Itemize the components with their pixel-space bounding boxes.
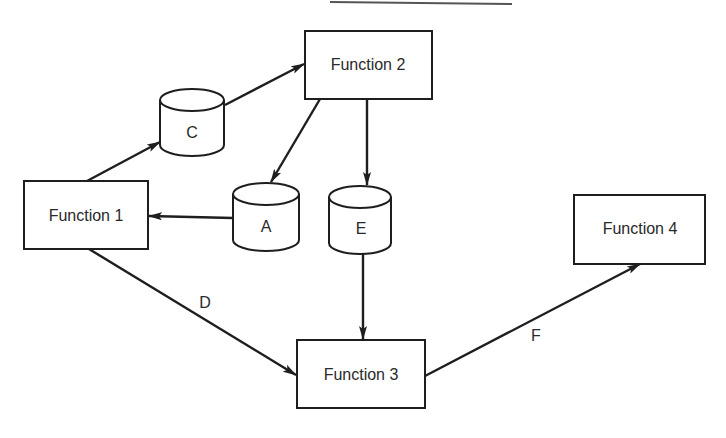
flow-c-to-f2[interactable] xyxy=(225,64,304,105)
flow-label-f: F xyxy=(531,327,541,344)
flow-label-d: D xyxy=(199,294,211,311)
flow-f1-to-f3-d[interactable] xyxy=(89,249,296,375)
process-function-2[interactable]: Function 2 xyxy=(305,31,432,99)
data-store-e[interactable]: E xyxy=(329,186,391,254)
flow-f3-to-f4-f[interactable] xyxy=(425,264,640,376)
process-function-3[interactable]: Function 3 xyxy=(297,340,425,408)
top-rule xyxy=(330,2,512,4)
process-function-4[interactable]: Function 4 xyxy=(574,195,705,264)
data-store-a[interactable]: A xyxy=(233,183,299,251)
process-label: Function 4 xyxy=(603,220,678,237)
data-store-c[interactable]: C xyxy=(160,89,224,156)
flow-a-to-f1[interactable] xyxy=(149,216,233,218)
process-label: Function 2 xyxy=(331,56,406,73)
process-label: Function 1 xyxy=(49,207,124,224)
process-function-1[interactable]: Function 1 xyxy=(24,181,148,249)
data-flow-diagram: Function 1 Function 2 Function 3 Functio… xyxy=(0,0,726,438)
process-label: Function 3 xyxy=(324,366,399,383)
flow-f2-to-a[interactable] xyxy=(271,99,320,182)
store-label: A xyxy=(261,218,272,235)
store-label: E xyxy=(356,220,367,237)
flow-f1-to-c[interactable] xyxy=(87,142,160,181)
store-label: C xyxy=(186,124,198,141)
